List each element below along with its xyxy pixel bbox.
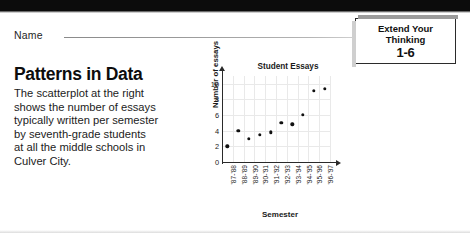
chart-x-tick-label: '95-'96 <box>316 165 323 184</box>
chart-gridline-vertical <box>233 76 234 162</box>
name-field-row: Name <box>14 25 344 41</box>
chart-x-axis-ticks: '87-'88'88-'89'89-'90'90-'91'91-'92'92-'… <box>222 165 338 209</box>
chart-data-point <box>236 129 239 132</box>
extend-your-thinking-box: Extend Your Thinking 1-6 <box>355 18 456 64</box>
chart-data-point <box>280 121 283 124</box>
chart-y-tick-label: 2 <box>215 142 219 151</box>
body-line: at all the middle schools in <box>14 141 194 155</box>
chart-y-tick-label: 8 <box>215 95 219 104</box>
name-label: Name <box>14 29 43 41</box>
chart-data-point <box>247 137 250 140</box>
chart-y-axis-line <box>222 70 223 164</box>
chart-gridline-vertical <box>330 76 331 162</box>
chart-y-tick-label: 0 <box>215 158 219 167</box>
chart-gridline-vertical <box>254 76 255 162</box>
chart-gridline-vertical <box>265 76 266 162</box>
chart-x-tick-label: '92-'93 <box>284 165 291 184</box>
chart-x-tick-label: '94-'95 <box>306 165 313 184</box>
page-bottom-edge <box>0 230 470 233</box>
chart-data-point <box>226 145 229 148</box>
chart-x-tick-label: '89-'90 <box>252 165 259 184</box>
chart-data-point <box>301 113 304 116</box>
chart-x-tick-label: '87-'88 <box>230 165 237 184</box>
chart-gridline-vertical <box>276 76 277 162</box>
callout-line-1: Extend Your <box>378 23 433 34</box>
callout-line-2: Thinking <box>386 34 426 45</box>
chart-x-axis-label: Semester <box>222 210 338 219</box>
chart-x-tick-label: '96-'97 <box>327 165 334 184</box>
chart-gridline-vertical <box>244 76 245 162</box>
body-line: The scatterplot at the right <box>14 87 194 101</box>
body-line: Culver City. <box>14 155 194 169</box>
chart-gridline-vertical <box>298 76 299 162</box>
chart-gridline-vertical <box>308 76 309 162</box>
chart-data-point <box>312 89 315 92</box>
chart-data-point <box>290 123 293 126</box>
callout-lesson-number: 1-6 <box>397 46 415 60</box>
chart-gridline-vertical <box>287 76 288 162</box>
chart-x-tick-label: '91-'92 <box>273 165 280 184</box>
chart-x-tick-label: '88-'89 <box>241 165 248 184</box>
name-write-in-line[interactable] <box>64 37 354 38</box>
body-line: by seventh-grade students <box>14 128 194 142</box>
chart-data-point <box>258 133 261 136</box>
chart-data-point <box>269 131 272 134</box>
callout-top-shadow <box>358 15 458 19</box>
chart-x-tick-label: '93-'94 <box>295 165 302 184</box>
worksheet-page: Name Extend Your Thinking 1-6 Patterns i… <box>0 0 470 233</box>
body-line: shows the number of essays <box>14 101 194 115</box>
chart-gridline-vertical <box>319 76 320 162</box>
scatterplot-chart: Student Essays Number of essays 0246810 … <box>196 62 346 227</box>
callout-left-shadow <box>352 21 356 67</box>
page-title: Patterns in Data <box>14 64 142 85</box>
chart-x-tick-label: '90-'91 <box>262 165 269 184</box>
chart-data-point <box>323 87 326 90</box>
chart-y-tick-label: 6 <box>215 111 219 120</box>
chart-y-axis-arrow-icon <box>219 66 225 71</box>
lesson-body-text: The scatterplot at the right shows the n… <box>14 87 194 169</box>
body-line: typically written per semester <box>14 114 194 128</box>
chart-y-tick-label: 10 <box>211 79 219 88</box>
chart-plot-area <box>222 76 330 162</box>
chart-y-axis-ticks: 0246810 <box>196 62 219 172</box>
page-top-black-bar <box>0 0 470 11</box>
chart-y-tick-label: 4 <box>215 126 219 135</box>
chart-title: Student Essays <box>240 62 336 71</box>
chart-x-axis-line <box>222 162 338 163</box>
